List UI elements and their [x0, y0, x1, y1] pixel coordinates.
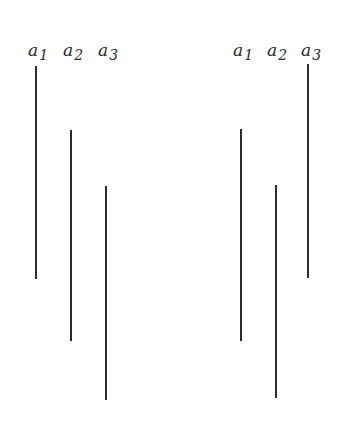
interval-diagram: a1 a2 a3 a1 a2 a3 [0, 0, 343, 430]
left-label-a1: a1 [28, 42, 48, 62]
right-label-a2: a2 [267, 42, 287, 62]
left-label-a3: a3 [98, 42, 118, 62]
right-bar-a2 [275, 185, 277, 398]
right-label-a3: a3 [301, 42, 321, 62]
left-label-a2: a2 [63, 42, 83, 62]
right-bar-a1 [240, 129, 242, 341]
left-bar-a1 [35, 66, 37, 279]
right-bar-a3 [307, 64, 309, 278]
left-bar-a2 [70, 130, 72, 341]
left-bar-a3 [105, 186, 107, 400]
right-label-a1: a1 [233, 42, 253, 62]
